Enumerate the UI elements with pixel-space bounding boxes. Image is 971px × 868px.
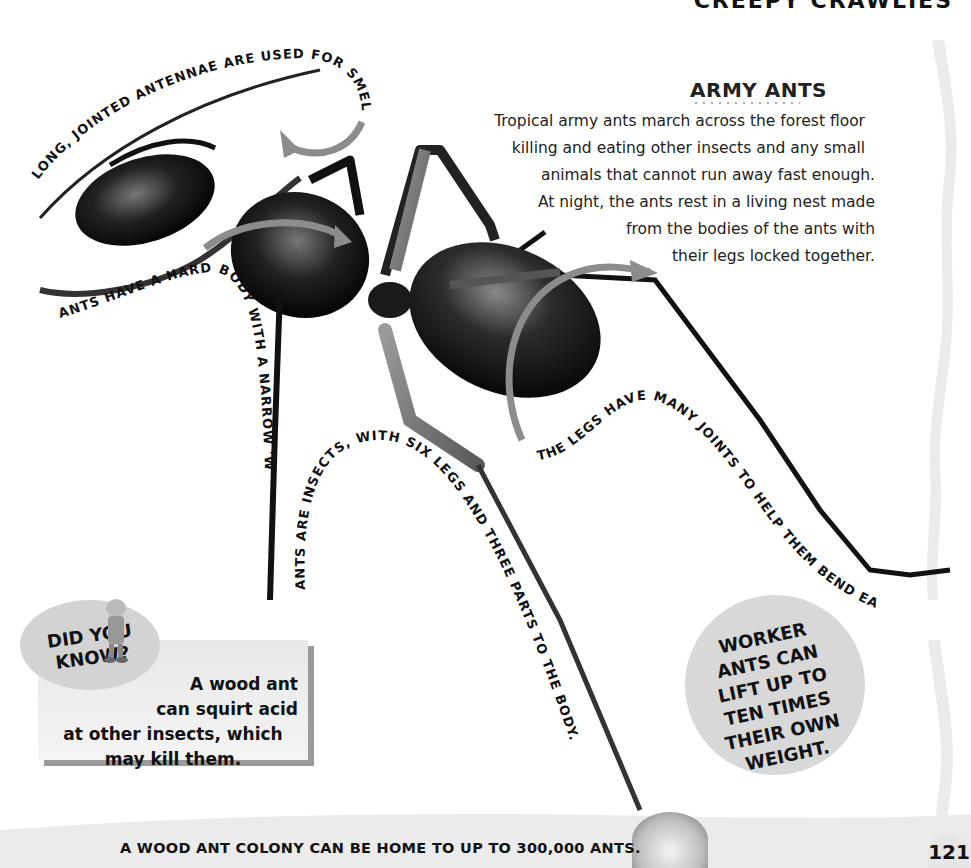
label-six-legs-text: ANTS ARE INSECTS, WITH SIX LEGS AND THRE… [292,428,582,743]
fact-line: at other insects, which [48,722,298,747]
label-antennae: LONG, JOINTED ANTENNAE ARE USED FOR SMEL… [0,0,374,182]
fact-line: may kill them. [48,747,298,772]
label-six-legs: ANTS ARE INSECTS, WITH SIX LEGS AND THRE… [292,428,582,743]
label-antennae-text: LONG, JOINTED ANTENNAE ARE USED FOR SMEL… [0,0,374,182]
label-hard-body-text: ANTS HAVE A HARD BODY WITH A NARROW 'WAI… [0,0,277,471]
explorer-guide-icon [96,596,136,666]
fact-line: can squirt acid [48,697,298,722]
page-number: 121 [928,834,970,868]
fact-line: A wood ant [48,672,298,697]
ant-nest-inset-photo [632,812,708,868]
did-you-know-text: A wood ant can squirt acid at other inse… [48,672,298,772]
footer-fact: A WOOD ANT COLONY CAN BE HOME TO UP TO 3… [120,840,641,856]
label-hard-body: ANTS HAVE A HARD BODY WITH A NARROW 'WAI… [0,0,277,471]
